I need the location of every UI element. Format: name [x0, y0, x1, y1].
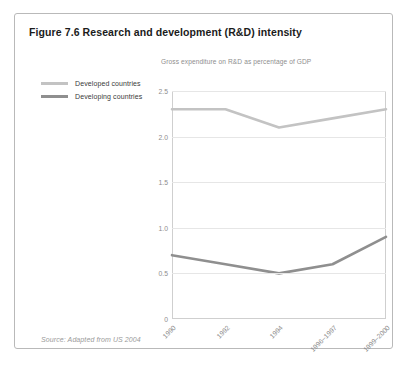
x-axis-tick-text: 1992	[215, 324, 231, 340]
chart-legend: Developed countriesDeveloping countries	[41, 77, 142, 103]
gridline	[172, 182, 386, 183]
legend-swatch	[41, 82, 68, 85]
y-axis-tick-label: 2.0	[159, 133, 168, 140]
x-axis-tick-text: 1990	[161, 324, 177, 340]
legend-item: Developed countries	[41, 77, 142, 90]
y-axis-tick-label: 1.5	[159, 179, 168, 186]
legend-label: Developed countries	[75, 80, 141, 87]
x-axis-tick-text: 1996–1997	[308, 324, 337, 353]
plot-area: 00.51.01.52.02.51990199219941996–1997199…	[172, 91, 386, 319]
figure-title: Figure 7.6 Research and development (R&D…	[29, 26, 302, 38]
legend-swatch	[41, 95, 68, 98]
y-axis-tick-label: 0.5	[159, 270, 168, 277]
x-axis-tick-text: 1999–2000	[362, 324, 391, 353]
legend-item: Developing countries	[41, 90, 142, 103]
gridline	[172, 91, 386, 92]
chart-subtitle: Gross expenditure on R&D as percentage o…	[161, 58, 311, 65]
plot-lines	[172, 91, 386, 319]
gridline	[172, 228, 386, 229]
gridline	[172, 137, 386, 138]
legend-label: Developing countries	[75, 93, 142, 100]
y-axis-tick-label: 0	[164, 316, 168, 323]
y-axis-tick-label: 2.5	[159, 88, 168, 95]
source-note: Source: Adapted from US 2004	[41, 336, 141, 343]
gridline	[172, 273, 386, 274]
series-line	[172, 109, 386, 127]
figure-card: Figure 7.6 Research and development (R&D…	[14, 13, 393, 349]
y-axis-tick-label: 1.0	[159, 224, 168, 231]
series-line	[172, 237, 386, 273]
x-axis-tick-text: 1994	[268, 324, 284, 340]
